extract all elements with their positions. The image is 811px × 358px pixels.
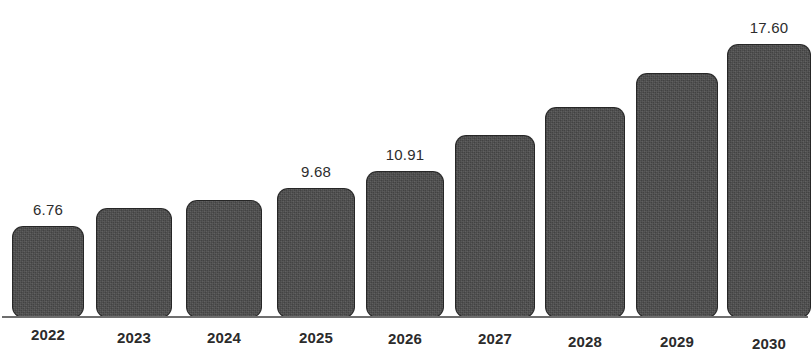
- bar-rect-2029[interactable]: [636, 73, 718, 318]
- bar-rect-2027[interactable]: [455, 135, 535, 318]
- bar-2028[interactable]: [545, 107, 625, 318]
- year-label-2028: 2028: [545, 333, 625, 350]
- value-label-2025: 9.68: [277, 164, 355, 180]
- bar-rect-2024[interactable]: [186, 200, 262, 318]
- bar-2027[interactable]: [455, 135, 535, 318]
- year-label-2023: 2023: [96, 329, 172, 346]
- value-label-2026: 10.91: [366, 147, 444, 163]
- bar-rect-2026[interactable]: [366, 171, 444, 318]
- value-label-2030: 17.60: [727, 20, 811, 36]
- value-label-2022: 6.76: [12, 202, 84, 218]
- year-label-2030: 2030: [727, 335, 811, 352]
- year-label-2025: 2025: [277, 329, 355, 346]
- year-label-2026: 2026: [366, 330, 444, 347]
- bar-rect-2028[interactable]: [545, 107, 625, 318]
- bar-rect-2030[interactable]: [727, 44, 811, 318]
- bar-rect-2025[interactable]: [277, 188, 355, 318]
- year-label-2022: 2022: [12, 326, 84, 343]
- bar-2029[interactable]: [636, 73, 718, 318]
- bar-2023[interactable]: [96, 208, 172, 318]
- bar-2025[interactable]: [277, 188, 355, 318]
- bar-rect-2022[interactable]: [12, 226, 84, 318]
- bar-2022[interactable]: [12, 226, 84, 318]
- bar-2024[interactable]: [186, 200, 262, 318]
- bar-2026[interactable]: [366, 171, 444, 318]
- x-axis-line: [2, 316, 808, 318]
- year-label-2027: 2027: [455, 330, 535, 347]
- bar-rect-2023[interactable]: [96, 208, 172, 318]
- bar-2030[interactable]: [727, 44, 811, 318]
- year-label-2029: 2029: [636, 333, 718, 350]
- year-label-2024: 2024: [186, 329, 262, 346]
